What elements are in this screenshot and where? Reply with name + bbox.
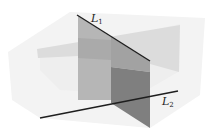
vertical-plane-left-band bbox=[78, 38, 111, 60]
skew-lines-diagram: L1 L2 bbox=[0, 0, 210, 140]
